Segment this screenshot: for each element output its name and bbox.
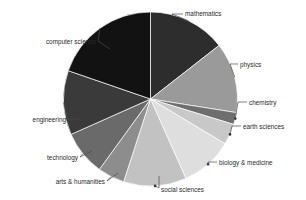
pie-chart-svg: mathematics physics chemistry earth scie… xyxy=(0,0,306,200)
slice-label-arts-humanities: arts & humanities xyxy=(56,178,105,185)
pie-chart-figure: mathematics physics chemistry earth scie… xyxy=(0,0,306,200)
slice-label-chemistry: chemistry xyxy=(249,99,277,107)
leader-dot-biology-medicine xyxy=(207,163,210,166)
leader-dot-social-sciences xyxy=(154,185,157,188)
leader-dot-earth-sciences xyxy=(229,133,232,136)
leader-dot-chemistry xyxy=(234,117,237,120)
slice-label-computer-science: computer science xyxy=(46,38,97,46)
slice-label-social-sciences: social sciences xyxy=(161,186,204,193)
slice-label-mathematics: mathematics xyxy=(185,10,221,17)
slice-label-earth-sciences: earth sciences xyxy=(243,123,284,130)
slice-label-technology: technology xyxy=(47,154,79,162)
slice-label-biology-medicine: biology & medicine xyxy=(219,159,273,167)
slice-label-engineering: engineering xyxy=(33,116,67,124)
slice-label-physics: physics xyxy=(240,61,261,69)
